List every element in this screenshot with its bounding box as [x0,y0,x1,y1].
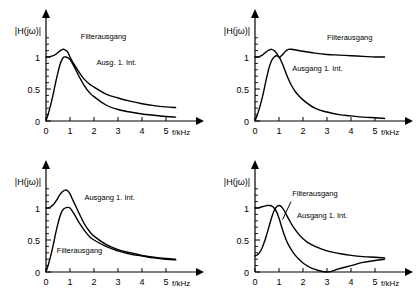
labels-top-left: FilterausgangAusg. 1. Int. [81,32,137,67]
y-tick-label: 1 [35,53,40,63]
y-axis-label: |H(jω)| [15,26,41,36]
y-axis-arrow [251,9,259,18]
y-tick-label: 0 [35,117,40,127]
x-axis-arrow [196,268,204,276]
curve-label-ausgang-1-int: Ausgang 1. Int. [297,211,347,220]
y-tick-label: 0.5 [236,236,249,246]
x-tick-label: 4 [139,277,144,287]
x-axis-label: f/kHz [381,128,399,137]
x-axis-arrow [405,117,413,125]
plot-top-left: 01234500.51 FilterausgangAusg. 1. Int. |… [0,0,209,150]
y-tick-label: 0.5 [236,85,249,95]
x-tick-label: 0 [252,126,257,136]
x-tick-label: 3 [324,126,329,136]
labels-bottom-right: FilterausgangAusgang 1. Int. [283,189,348,219]
x-tick-label: 4 [348,126,353,136]
labels-bottom-left: Ausgang 1. Int.Filterausgang [57,193,135,254]
curve-label-ausgang-1-int: Ausg. 1. Int. [96,58,136,67]
x-tick-label: 5 [372,277,377,287]
x-tick-label: 1 [276,126,281,136]
y-axis-label: |H(jω)| [224,177,250,187]
panel-top-right: 01234500.51 FilterausgangAusgang 1. Int.… [209,0,418,150]
x-tick-label: 3 [115,277,120,287]
x-tick-label: 2 [300,126,305,136]
y-tick-label: 0 [244,117,249,127]
x-tick-label: 1 [67,277,72,287]
x-axis-arrow [405,268,413,276]
curve-label-ausgang-1-int: Ausgang 1. Int. [84,193,134,202]
panel-top-left: 01234500.51 FilterausgangAusg. 1. Int. |… [0,0,209,150]
y-axis-label: |H(jω)| [15,177,41,187]
x-axis-arrow [196,117,204,125]
y-axis-arrow [42,9,50,18]
y-tick-label: 1 [244,53,249,63]
x-tick-label: 0 [43,126,48,136]
panel-bottom-left: 01234500.51 Ausgang 1. Int.Filterausgang… [0,150,209,300]
x-tick-label: 4 [348,277,353,287]
x-tick-label: 0 [43,277,48,287]
labels-top-right: FilterausgangAusgang 1. Int. [292,33,372,73]
x-tick-label: 0 [252,277,257,287]
curve-filterausgang [46,207,176,272]
plot-bottom-left: 01234500.51 Ausgang 1. Int.Filterausgang… [0,150,209,301]
y-tick-label: 0.5 [27,85,40,95]
panel-bottom-right: 01234500.51 FilterausgangAusgang 1. Int.… [209,150,418,300]
y-axis-arrow [42,160,50,169]
x-tick-label: 3 [324,277,329,287]
y-tick-label: 0 [35,268,40,278]
curve-label-filterausgang: Filterausgang [81,32,126,41]
curve-label-filterausgang: Filterausgang [57,246,102,255]
x-tick-label: 1 [276,277,281,287]
curve-label-filterausgang: Filterausgang [327,33,372,42]
y-axis-label: |H(jω)| [224,26,250,36]
x-axis-label: f/kHz [172,279,190,288]
axes-bottom-left [42,160,204,276]
x-tick-label: 5 [163,277,168,287]
y-tick-label: 1 [244,204,249,214]
y-tick-label: 0 [244,268,249,278]
x-tick-label: 1 [67,126,72,136]
curves-top-right [255,49,385,121]
y-tick-label: 0.5 [27,236,40,246]
x-tick-label: 2 [91,277,96,287]
x-tick-label: 5 [372,126,377,136]
axes-top-left [42,9,204,125]
x-axis-label: f/kHz [172,128,190,137]
plot-bottom-right: 01234500.51 FilterausgangAusgang 1. Int.… [209,150,418,301]
x-tick-label: 2 [300,277,305,287]
curve-label-ausgang-1-int: Ausgang 1. Int. [292,64,342,73]
x-tick-label: 5 [163,126,168,136]
curve-label-filterausgang: Filterausgang [292,189,337,198]
x-tick-label: 3 [115,126,120,136]
x-tick-label: 4 [139,126,144,136]
x-tick-label: 2 [91,126,96,136]
plot-top-right: 01234500.51 FilterausgangAusgang 1. Int.… [209,0,418,150]
y-tick-label: 1 [35,204,40,214]
y-axis-arrow [251,160,259,169]
x-axis-label: f/kHz [381,279,399,288]
four-panel-frequency-response-figure: 01234500.51 FilterausgangAusg. 1. Int. |… [0,0,418,301]
